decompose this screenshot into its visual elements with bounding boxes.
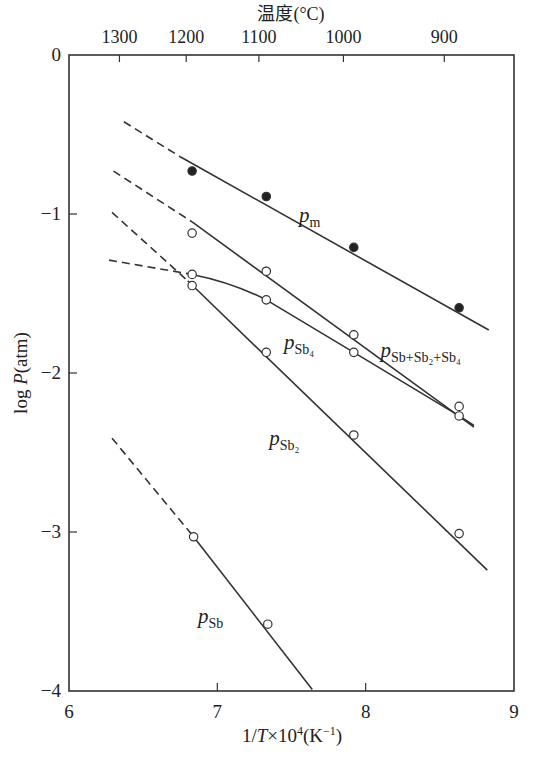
data-point bbox=[350, 243, 358, 251]
series-p-sb2: pSb₂ bbox=[112, 212, 487, 570]
series-dashed-extrapolation bbox=[114, 171, 193, 222]
data-point bbox=[188, 167, 196, 175]
data-point bbox=[455, 529, 463, 537]
data-point bbox=[350, 331, 358, 339]
plot-frame bbox=[69, 55, 514, 691]
series-p-sb: pSb bbox=[112, 438, 312, 689]
series-line bbox=[194, 537, 313, 690]
top-tick-label: 900 bbox=[431, 27, 458, 47]
series-label: pSb₄ bbox=[282, 330, 314, 357]
data-point bbox=[455, 402, 463, 410]
y-tick-label: −2 bbox=[41, 362, 61, 383]
data-point bbox=[262, 348, 270, 356]
data-point bbox=[455, 412, 463, 420]
y-tick-label: −4 bbox=[41, 680, 62, 701]
series-dashed-extrapolation bbox=[124, 122, 180, 157]
series-label: pSb+Sb₂+Sb₄ bbox=[379, 338, 462, 365]
top-tick-label: 1300 bbox=[101, 27, 137, 47]
data-point bbox=[262, 267, 270, 275]
series-layer: pmpSb+Sb₂+Sb₄pSb₄pSb₂pSb bbox=[109, 122, 489, 690]
series-dashed-extrapolation bbox=[109, 260, 192, 274]
y-tick-label: −1 bbox=[41, 203, 61, 224]
series-dashed-extrapolation bbox=[112, 438, 194, 537]
data-point bbox=[350, 431, 358, 439]
x-tick-label: 6 bbox=[64, 701, 74, 722]
data-point bbox=[188, 281, 196, 289]
x-tick-label: 8 bbox=[361, 701, 371, 722]
data-point bbox=[188, 270, 196, 278]
y-tick-label: −3 bbox=[41, 521, 61, 542]
y-tick-label: 0 bbox=[52, 44, 62, 65]
data-point bbox=[350, 348, 358, 356]
series-p-m: pm bbox=[124, 122, 489, 330]
data-point bbox=[264, 620, 272, 628]
data-point bbox=[189, 533, 197, 541]
x-tick-label: 9 bbox=[509, 701, 519, 722]
x-axis-label: 1/T×104(K−1) bbox=[242, 724, 342, 747]
series-line bbox=[192, 222, 474, 427]
top-tick-label: 1100 bbox=[241, 27, 276, 47]
series-label: pSb₂ bbox=[267, 426, 299, 453]
top-tick-label: 1000 bbox=[325, 27, 361, 47]
data-point bbox=[455, 304, 463, 312]
series-line bbox=[188, 281, 488, 570]
y-axis-label: log P(atm) bbox=[10, 332, 32, 414]
series-p-sb-sb2-sb4: pSb+Sb₂+Sb₄ bbox=[114, 171, 474, 427]
x-tick-label: 7 bbox=[213, 701, 223, 722]
series-label: pSb bbox=[196, 604, 223, 631]
y-axis-ticks: 0−1−2−3−4 bbox=[41, 44, 77, 701]
data-point bbox=[262, 192, 270, 200]
chart: 温度(°C) 1300120011001000900 6789 0−1−2−3−… bbox=[0, 0, 541, 759]
series-line bbox=[180, 157, 489, 330]
series-p-sb4: pSb₄ bbox=[109, 260, 474, 425]
data-point bbox=[188, 229, 196, 237]
series-dashed-extrapolation bbox=[112, 212, 188, 280]
top-axis-ticks: 1300120011001000900 bbox=[101, 27, 457, 62]
data-point bbox=[262, 296, 270, 304]
x-axis-ticks: 6789 bbox=[64, 683, 519, 722]
top-tick-label: 1200 bbox=[168, 27, 204, 47]
series-label: pm bbox=[297, 203, 321, 230]
top-axis-title: 温度(°C) bbox=[257, 4, 324, 25]
